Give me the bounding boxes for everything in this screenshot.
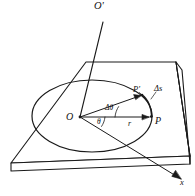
label-angle-theta: θ: [97, 118, 101, 126]
label-angle-delta-theta: Δθ: [105, 104, 113, 112]
label-arc-length: Δs: [154, 84, 162, 93]
point-o-marker: [79, 116, 82, 119]
label-point-p: P: [155, 116, 161, 126]
label-point-p-prime: P': [133, 85, 140, 94]
label-axis-x: x: [180, 178, 184, 187]
label-axis-top: O': [94, 1, 104, 12]
diagram-svg: [0, 0, 195, 196]
point-p-marker: [150, 115, 153, 118]
plate-top-face: [11, 62, 190, 163]
figure-canvas: O' O P P' Δs Δθ θ r x: [0, 0, 195, 196]
label-origin: O: [66, 112, 73, 122]
label-radius: r: [128, 120, 131, 128]
